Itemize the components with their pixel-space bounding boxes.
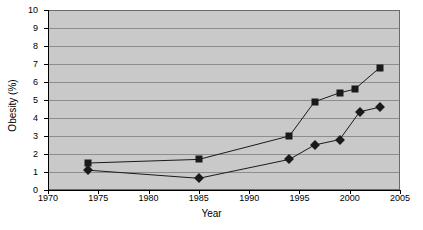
y-axis-line	[48, 10, 49, 191]
y-tick-label: 8	[33, 41, 38, 51]
gridline	[49, 82, 399, 83]
gridline	[49, 64, 399, 65]
y-axis-label: Obesity (%)	[7, 66, 18, 146]
y-tick-label: 1	[33, 167, 38, 177]
x-tick-label: 1980	[139, 193, 159, 203]
x-tick-label: 1985	[189, 193, 209, 203]
x-tick-mark	[350, 190, 351, 194]
y-tick-mark	[44, 154, 48, 155]
data-point-square	[195, 156, 202, 163]
x-tick-mark	[48, 190, 49, 194]
y-tick-label: 3	[33, 131, 38, 141]
y-tick-mark	[44, 10, 48, 11]
y-tick-label: 5	[33, 95, 38, 105]
y-tick-label: 6	[33, 77, 38, 87]
data-point-square	[336, 89, 343, 96]
y-tick-mark	[44, 28, 48, 29]
x-tick-mark	[199, 190, 200, 194]
x-axis-line	[48, 190, 401, 191]
y-tick-label: 10	[28, 5, 38, 15]
x-tick-label: 1975	[88, 193, 108, 203]
y-tick-mark	[44, 46, 48, 47]
gridline	[49, 28, 399, 29]
gridline	[49, 100, 399, 101]
obesity-line-chart: 012345678910 197019751980198519901995200…	[0, 0, 423, 230]
x-tick-label: 2005	[390, 193, 410, 203]
x-tick-mark	[98, 190, 99, 194]
y-tick-mark	[44, 118, 48, 119]
data-point-square	[311, 98, 318, 105]
y-tick-mark	[44, 64, 48, 65]
y-tick-label: 2	[33, 149, 38, 159]
x-tick-mark	[299, 190, 300, 194]
y-tick-label: 7	[33, 59, 38, 69]
plot-area	[48, 10, 400, 190]
x-tick-label: 1990	[239, 193, 259, 203]
data-point-square	[376, 64, 383, 71]
gridline	[49, 172, 399, 173]
x-tick-label: 1970	[38, 193, 58, 203]
x-tick-label: 1995	[289, 193, 309, 203]
gridline	[49, 136, 399, 137]
x-tick-label: 2000	[340, 193, 360, 203]
x-axis-label: Year	[0, 208, 423, 219]
x-tick-mark	[149, 190, 150, 194]
y-tick-mark	[44, 100, 48, 101]
y-tick-mark	[44, 172, 48, 173]
data-point-square	[286, 133, 293, 140]
y-tick-mark	[44, 136, 48, 137]
gridline	[49, 154, 399, 155]
gridline	[49, 46, 399, 47]
y-tick-label: 9	[33, 23, 38, 33]
y-tick-mark	[44, 82, 48, 83]
y-tick-label: 4	[33, 113, 38, 123]
x-tick-mark	[400, 190, 401, 194]
x-tick-mark	[249, 190, 250, 194]
data-point-square	[351, 86, 358, 93]
gridline	[49, 118, 399, 119]
